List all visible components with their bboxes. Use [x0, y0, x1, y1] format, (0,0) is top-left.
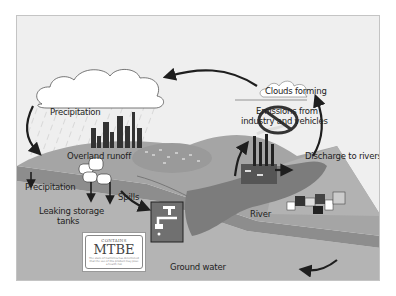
label-river: River: [250, 210, 271, 219]
mtbe-sign-main: MTBE: [86, 243, 142, 257]
label-emissions-line2: industry and vehicles: [241, 117, 328, 126]
diagram-frame: Precipitation Clouds forming Emissions f…: [16, 15, 380, 281]
label-precipitation-sky: Precipitation: [50, 108, 101, 117]
label-emissions-line1: Emissions from: [256, 107, 318, 116]
mtbe-sign-border: CONTAINS MTBE The state of California ha…: [85, 235, 143, 269]
label-overland-runoff: Overland runoff: [67, 152, 131, 161]
diagram-artwork: [17, 16, 380, 281]
label-leaking-tanks-line2: tanks: [57, 217, 79, 226]
label-clouds-forming: Clouds forming: [265, 87, 327, 96]
label-discharge-to-rivers: Discharge to rivers: [305, 152, 380, 161]
label-leaking-tanks-line1: Leaking storage: [39, 207, 104, 216]
label-spills: Spills: [118, 193, 139, 202]
faucet-well-icon: [151, 202, 183, 242]
mtbe-sign-fine-print: The state of California has determined t…: [86, 257, 142, 266]
cloud-icon: [37, 69, 164, 108]
label-precipitation-ground: Precipitation: [25, 183, 76, 192]
label-ground-water: Ground water: [170, 263, 226, 272]
mtbe-warning-sign: CONTAINS MTBE The state of California ha…: [82, 232, 146, 272]
city-suburbs: [132, 143, 212, 173]
